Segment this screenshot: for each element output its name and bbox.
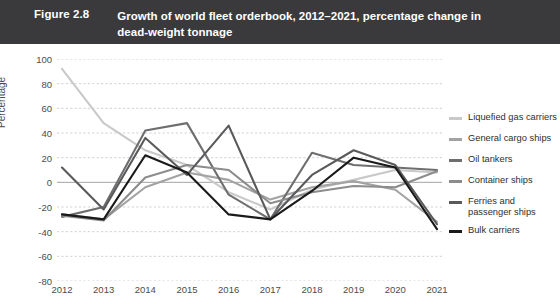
x-tick-label: 2020 [385, 284, 406, 295]
y-tick-label: 0 [22, 177, 52, 188]
legend-item[interactable]: Container ships [449, 175, 557, 187]
y-tick-label: -20 [22, 202, 52, 213]
y-axis-ticks: 100806040200-20-40-60-80 [18, 59, 52, 281]
figure-title-bar: Figure 2.8 Growth of world fleet orderbo… [0, 0, 560, 44]
legend-label: Bulk carriers [468, 225, 520, 237]
legend-swatch [449, 138, 462, 141]
x-tick-label: 2018 [301, 284, 322, 295]
chart-legend: Liquefied gas carriersGeneral cargo ship… [449, 112, 557, 246]
legend-swatch [449, 180, 462, 183]
legend-label: Oil tankers [468, 154, 512, 166]
y-tick-label: 60 [22, 103, 52, 114]
legend-label: Ferries and passenger ships [468, 196, 557, 220]
y-tick-label: -60 [22, 251, 52, 262]
x-tick-label: 2015 [176, 284, 197, 295]
x-axis-ticks: 2012201320142015201620172018201920202021 [57, 284, 442, 298]
legend-label: Liquefied gas carriers [468, 112, 557, 124]
legend-swatch [449, 117, 462, 120]
y-tick-label: 40 [22, 128, 52, 139]
y-axis-label: Percentage [0, 77, 7, 128]
y-tick-label: 80 [22, 78, 52, 89]
x-tick-label: 2021 [426, 284, 447, 295]
x-tick-label: 2014 [135, 284, 156, 295]
y-tick-label: -40 [22, 226, 52, 237]
plot-area [57, 59, 442, 281]
legend-item[interactable]: Liquefied gas carriers [449, 112, 557, 124]
legend-swatch [449, 159, 462, 162]
legend-item[interactable]: Ferries and passenger ships [449, 196, 557, 220]
y-tick-label: 20 [22, 152, 52, 163]
series-line [62, 69, 437, 210]
x-tick-label: 2016 [218, 284, 239, 295]
x-tick-label: 2012 [51, 284, 72, 295]
x-tick-label: 2019 [343, 284, 364, 295]
legend-item[interactable]: General cargo ships [449, 133, 557, 145]
y-tick-label: -80 [22, 276, 52, 287]
x-tick-label: 2013 [93, 284, 114, 295]
figure-title: Growth of world fleet orderbook, 2012–20… [89, 0, 519, 41]
legend-swatch [449, 230, 462, 233]
legend-label: Container ships [468, 175, 533, 187]
legend-label: General cargo ships [468, 133, 551, 145]
legend-item[interactable]: Oil tankers [449, 154, 557, 166]
x-tick-label: 2017 [260, 284, 281, 295]
figure-container: Figure 2.8 Growth of world fleet orderbo… [0, 0, 560, 304]
legend-swatch [449, 201, 462, 204]
y-tick-label: 100 [22, 54, 52, 65]
series-line [62, 126, 437, 225]
line-chart-svg [57, 59, 442, 281]
figure-number: Figure 2.8 [0, 0, 89, 20]
legend-item[interactable]: Bulk carriers [449, 225, 557, 237]
